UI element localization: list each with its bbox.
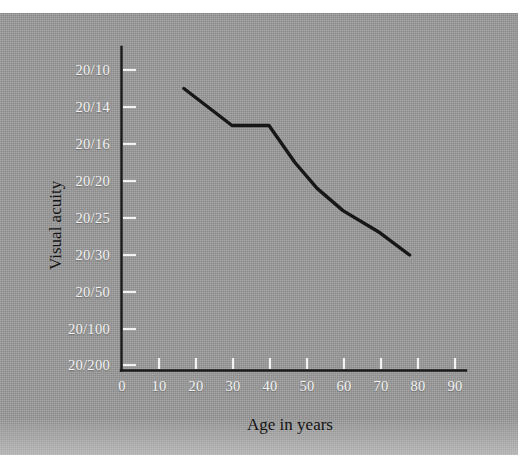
series-visual-acuity [184,89,410,256]
y-tick-label-2: 20/16 [10,136,110,153]
x-tick-label-9: 90 [447,378,462,395]
x-tick-label-4: 40 [262,378,277,395]
y-tick-label-7: 20/100 [10,321,110,338]
x-tick-label-1: 10 [151,378,166,395]
figure: 20/10 20/14 20/16 20/20 20/25 20/30 20/5… [0,0,518,465]
x-tick-label-6: 60 [336,378,351,395]
y-axis-title: Visual acuity [46,181,66,270]
x-tick-label-0: 0 [118,378,126,395]
x-tick-label-3: 30 [225,378,240,395]
y-tick-label-8: 20/200 [10,357,110,374]
x-tick-label-5: 50 [299,378,314,395]
y-tick-label-1: 20/14 [10,99,110,116]
x-tick-label-7: 70 [373,378,388,395]
y-tick-label-0: 20/10 [10,62,110,79]
y-tick-label-6: 20/50 [10,284,110,301]
x-axis-title: Age in years [247,415,333,435]
x-axis-ticks [159,358,455,369]
x-tick-label-8: 80 [410,378,425,395]
y-axis-ticks [123,70,136,365]
x-tick-label-2: 20 [188,378,203,395]
